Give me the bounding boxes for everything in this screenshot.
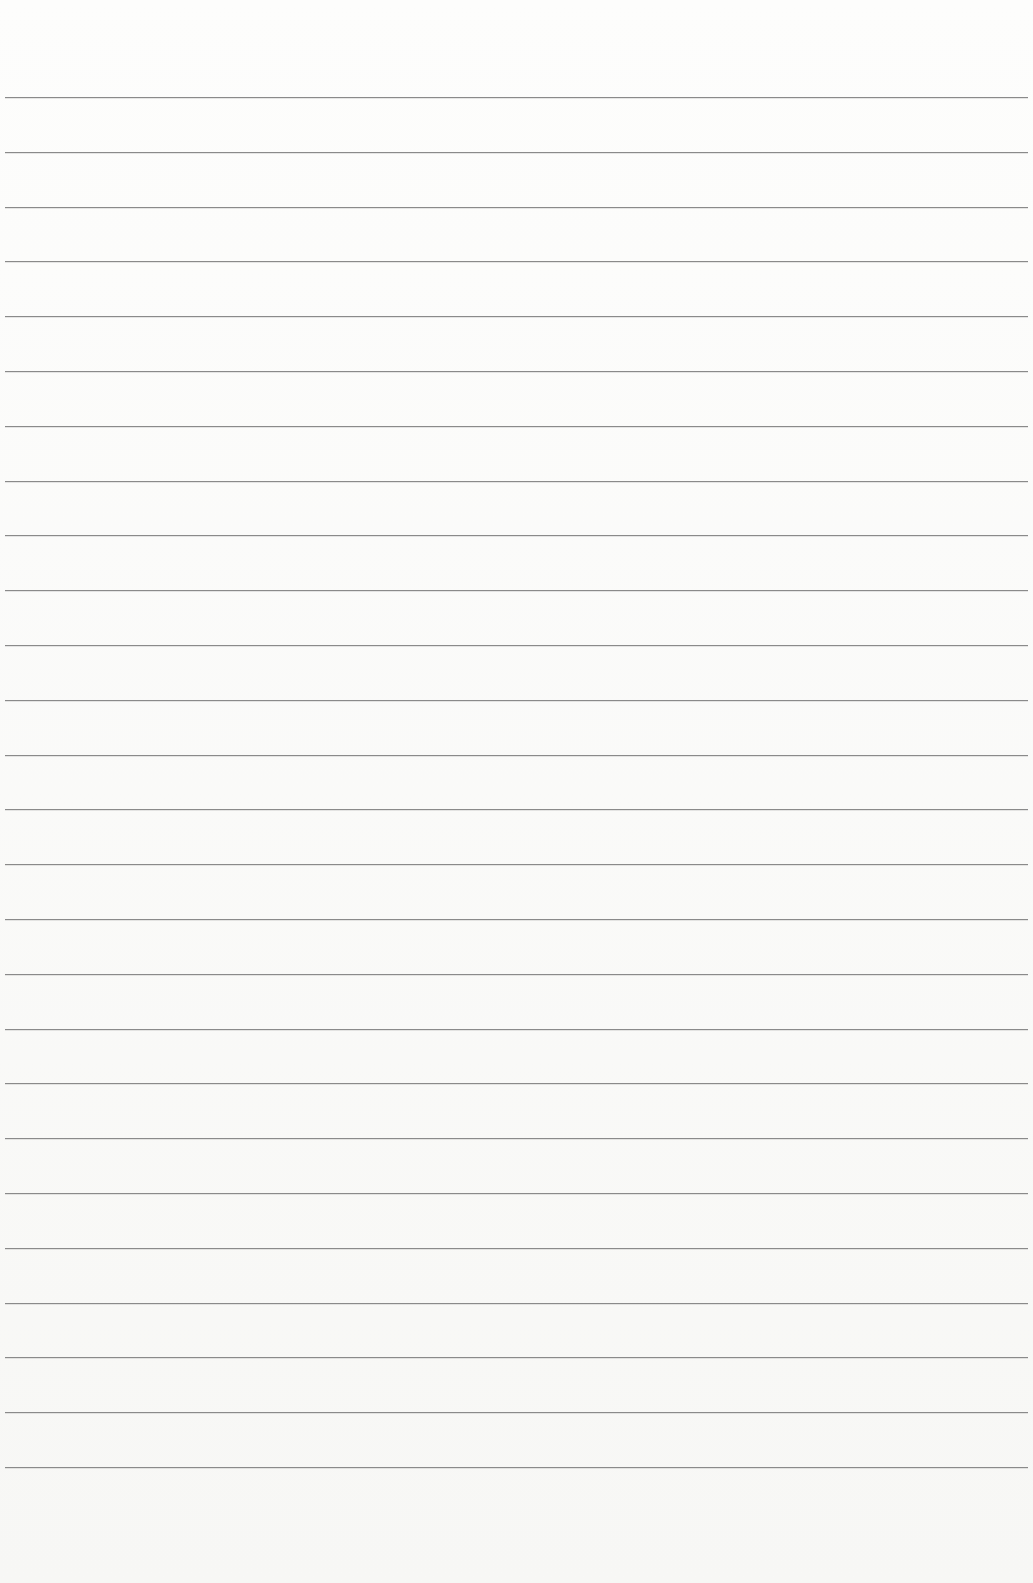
ruled-line xyxy=(5,590,1028,591)
ruled-line xyxy=(5,316,1028,317)
ruled-line xyxy=(5,481,1028,482)
ruled-line xyxy=(5,864,1028,865)
ruled-line xyxy=(5,1303,1028,1304)
ruled-line xyxy=(5,974,1028,975)
ruled-line xyxy=(5,1138,1028,1139)
ruled-line xyxy=(5,371,1028,372)
ruled-line xyxy=(5,1248,1028,1249)
ruled-line xyxy=(5,1357,1028,1358)
ruled-line xyxy=(5,700,1028,701)
ruled-paper-page xyxy=(0,0,1033,1583)
ruled-line xyxy=(5,1412,1028,1413)
ruled-line xyxy=(5,919,1028,920)
ruled-line xyxy=(5,261,1028,262)
ruled-line xyxy=(5,426,1028,427)
ruled-line xyxy=(5,1193,1028,1194)
ruled-line xyxy=(5,809,1028,810)
ruled-line xyxy=(5,1467,1028,1468)
ruled-line xyxy=(5,755,1028,756)
ruled-line xyxy=(5,97,1028,98)
ruled-line xyxy=(5,1083,1028,1084)
ruled-line xyxy=(5,207,1028,208)
ruled-line xyxy=(5,535,1028,536)
ruled-line xyxy=(5,1029,1028,1030)
ruled-line xyxy=(5,152,1028,153)
ruled-line xyxy=(5,645,1028,646)
